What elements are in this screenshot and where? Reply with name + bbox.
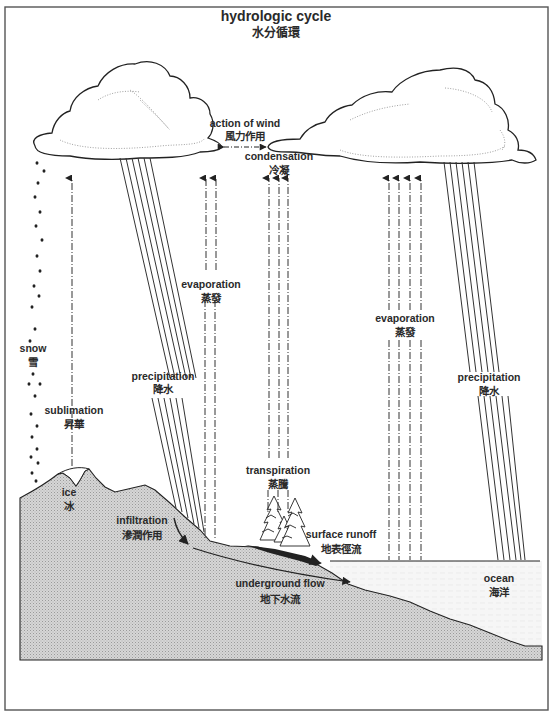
svg-text:sublimation: sublimation	[45, 404, 104, 416]
svg-text:滲潤作用: 滲潤作用	[122, 529, 162, 541]
svg-text:地表徑流: 地表徑流	[321, 543, 362, 555]
svg-text:snow: snow	[20, 342, 48, 354]
svg-text:海洋: 海洋	[489, 586, 510, 598]
svg-text:infiltration: infiltration	[116, 514, 167, 526]
svg-text:precipitation: precipitation	[457, 371, 520, 383]
svg-text:action of wind: action of wind	[210, 117, 281, 129]
svg-text:冰: 冰	[64, 500, 75, 512]
title-zh: 水分循環	[252, 25, 301, 40]
svg-text:昇華: 昇華	[64, 418, 85, 430]
svg-text:transpiration: transpiration	[246, 464, 310, 476]
svg-text:ice: ice	[62, 486, 77, 498]
svg-text:underground flow: underground flow	[235, 577, 325, 589]
svg-text:ocean: ocean	[484, 572, 514, 584]
hydrologic-cycle-diagram: hydrologic cycle 水分循環	[0, 0, 554, 719]
svg-text:降水: 降水	[153, 383, 174, 395]
title-en: hydrologic cycle	[221, 8, 332, 24]
svg-text:surface runoff: surface runoff	[306, 528, 377, 540]
svg-text:雪: 雪	[28, 356, 38, 368]
svg-text:evaporation: evaporation	[181, 278, 241, 290]
svg-text:蒸發: 蒸發	[395, 326, 416, 338]
svg-text:precipitation: precipitation	[131, 370, 194, 382]
svg-text:蒸騰: 蒸騰	[268, 478, 289, 490]
svg-text:condensation: condensation	[245, 150, 313, 162]
svg-text:蒸發: 蒸發	[201, 292, 222, 304]
svg-text:冷凝: 冷凝	[269, 164, 290, 176]
svg-text:evaporation: evaporation	[375, 312, 435, 324]
svg-text:地下水流: 地下水流	[260, 593, 301, 605]
svg-text:風力作用: 風力作用	[225, 130, 265, 142]
svg-text:降水: 降水	[479, 385, 500, 397]
